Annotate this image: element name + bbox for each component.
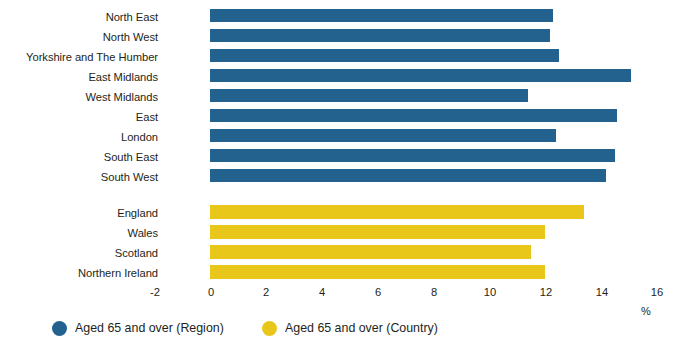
x-tick-9: 16 (651, 285, 663, 299)
x-tick-6: 10 (484, 285, 496, 299)
legend-item-country[interactable]: Aged 65 and over (Country) (262, 320, 438, 336)
legend-swatch-region-icon (52, 321, 67, 336)
x-tick-1: 0 (208, 285, 214, 299)
x-tick-8: 14 (596, 285, 608, 299)
bar-chart: North East North West Yorkshire and The … (0, 0, 678, 353)
bar-region-west-midlands (210, 89, 528, 102)
bar-region-north-west (210, 29, 550, 42)
x-axis-unit-label: % (641, 305, 651, 317)
bar-country-england (210, 205, 584, 219)
chart-legend: Aged 65 and over (Region) Aged 65 and ov… (0, 320, 678, 346)
bar-country-scotland (210, 245, 531, 259)
bar-country-wales (210, 225, 545, 239)
plot-area (0, 0, 678, 290)
legend-swatch-country-icon (262, 321, 277, 336)
x-tick-5: 8 (431, 285, 437, 299)
x-tick-3: 4 (319, 285, 325, 299)
x-tick-0: -2 (150, 285, 160, 299)
legend-label-country: Aged 65 and over (Country) (285, 320, 438, 336)
legend-item-region[interactable]: Aged 65 and over (Region) (52, 320, 224, 336)
bar-country-northern-ireland (210, 265, 545, 279)
bar-region-east (210, 109, 617, 122)
x-tick-2: 2 (263, 285, 269, 299)
bar-region-north-east (210, 9, 553, 22)
bar-region-yorkshire-and-the-humber (210, 49, 559, 62)
bar-region-south-east (210, 149, 615, 162)
legend-label-region: Aged 65 and over (Region) (75, 320, 224, 336)
x-axis: -2 0 2 4 6 8 10 12 14 16 (0, 285, 678, 309)
bar-region-east-midlands (210, 69, 631, 82)
bar-region-london (210, 129, 556, 142)
x-tick-4: 6 (375, 285, 381, 299)
x-tick-7: 12 (540, 285, 552, 299)
bar-region-south-west (210, 169, 606, 182)
